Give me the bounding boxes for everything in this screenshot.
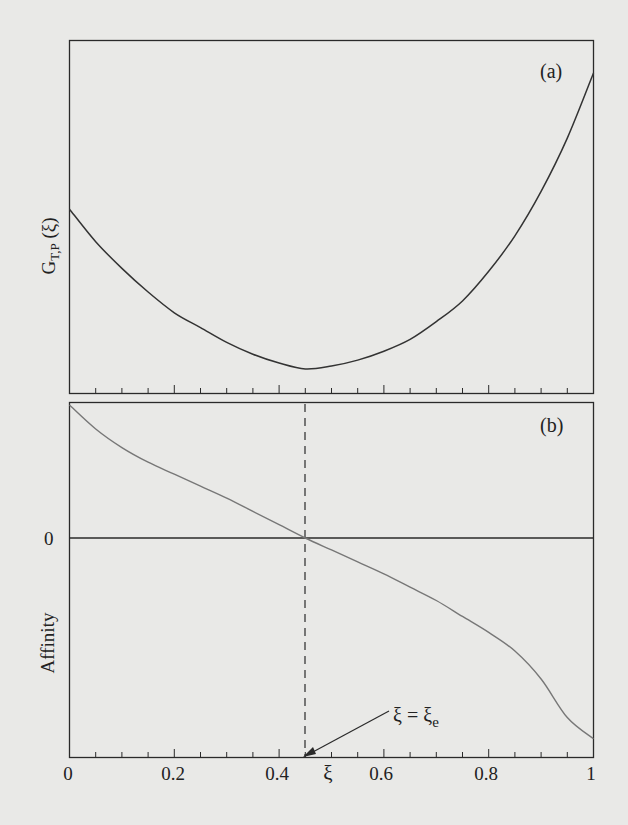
y-axis-label-gibbs: GT,P (ξ) (38, 217, 62, 274)
x-tick-label: 0 (63, 763, 73, 784)
x-axis-label: ξ (323, 761, 332, 785)
x-tick-label: 0.2 (161, 763, 185, 784)
y-axis-label-affinity: Affinity (37, 612, 58, 673)
panel-a-label: (a) (540, 60, 562, 83)
panel-b-frame (70, 403, 594, 758)
affinity-curve (70, 405, 594, 739)
y-tick-zero: 0 (44, 528, 54, 549)
x-ticks-panel-a (96, 385, 568, 393)
x-tick-label: 1 (586, 763, 596, 784)
x-ticks-panel-b (96, 749, 568, 757)
figure: ξ = ξe (a) (b) GT,P (ξ) Affinity 0 0 0.2… (0, 0, 628, 825)
x-tick-label: 0.4 (265, 763, 289, 784)
panel-a-frame (70, 41, 594, 394)
annotation-arrow-line (311, 711, 389, 753)
gibbs-energy-curve (70, 73, 594, 369)
x-tick-label: 0.6 (369, 763, 393, 784)
equilibrium-annotation: ξ = ξe (393, 704, 439, 730)
panel-b-label: (b) (540, 414, 563, 437)
x-tick-label: 0.8 (474, 763, 498, 784)
